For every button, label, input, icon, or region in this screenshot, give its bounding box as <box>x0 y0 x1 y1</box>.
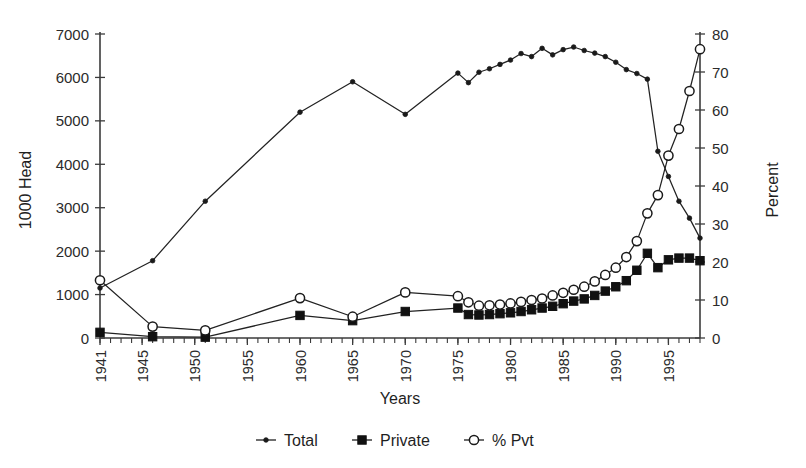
y-axis-right-title: Percent <box>764 162 781 218</box>
data-point <box>548 291 557 300</box>
data-point <box>485 310 493 318</box>
data-point <box>506 299 515 308</box>
x-tick-label: 1955 <box>240 350 256 382</box>
data-point <box>664 151 673 160</box>
data-point <box>454 304 462 312</box>
data-point <box>403 112 408 117</box>
y-axis-title: 1000 Head <box>17 151 34 229</box>
data-point <box>527 306 535 314</box>
data-point <box>538 304 546 312</box>
data-point <box>295 294 304 303</box>
data-point <box>529 54 534 59</box>
data-point <box>496 309 504 317</box>
y-tick-label: 1000 <box>56 286 89 303</box>
y2-tick-label: 70 <box>712 64 729 81</box>
data-point <box>666 174 671 179</box>
chart-legend: TotalPrivate% Pvt <box>256 432 534 449</box>
data-point <box>550 53 555 58</box>
data-point <box>695 45 704 54</box>
data-point <box>538 294 547 303</box>
data-point <box>517 307 525 315</box>
data-point <box>601 287 609 295</box>
y-tick-label: 5000 <box>56 112 89 129</box>
y2-tick-label: 20 <box>712 254 729 271</box>
data-point <box>495 300 504 309</box>
data-point <box>95 276 104 285</box>
data-point <box>561 47 566 52</box>
data-point <box>582 48 587 53</box>
data-point <box>685 86 694 95</box>
y2-tick-label: 50 <box>712 140 729 157</box>
x-tick-label: 1970 <box>398 350 414 382</box>
data-point <box>540 46 545 51</box>
data-point <box>96 328 104 336</box>
data-point <box>643 249 651 257</box>
data-point <box>401 288 410 297</box>
y2-tick-label: 80 <box>712 26 729 43</box>
data-point <box>698 236 703 241</box>
y-tick-label: 2000 <box>56 243 89 260</box>
data-point <box>508 58 513 63</box>
data-point <box>456 71 461 76</box>
data-point <box>635 71 640 76</box>
data-point <box>622 276 630 284</box>
chart-figure: 01000200030004000500060007000 0102030405… <box>0 0 806 468</box>
data-point <box>485 301 494 310</box>
data-point <box>464 298 473 307</box>
data-point <box>654 263 662 271</box>
data-point <box>685 254 693 262</box>
data-point <box>559 288 568 297</box>
y-tick-label: 0 <box>81 330 89 347</box>
data-point <box>148 332 156 340</box>
data-point <box>527 295 536 304</box>
data-point <box>516 297 525 306</box>
y-tick-label: 4000 <box>56 156 89 173</box>
y2-tick-label: 30 <box>712 216 729 233</box>
data-point <box>696 256 704 264</box>
data-point <box>677 199 682 204</box>
data-point <box>148 322 157 331</box>
data-point <box>591 291 599 299</box>
data-point <box>475 311 483 319</box>
data-point <box>611 263 620 272</box>
data-point <box>645 77 650 82</box>
data-point <box>477 70 482 75</box>
data-point <box>675 254 683 262</box>
y-tick-label: 6000 <box>56 69 89 86</box>
data-point <box>569 285 578 294</box>
data-point <box>548 302 556 310</box>
y-tick-label: 3000 <box>56 199 89 216</box>
x-tick-label: 1990 <box>608 350 624 382</box>
data-point <box>656 149 661 154</box>
y2-tick-label: 60 <box>712 102 729 119</box>
data-point <box>622 252 631 261</box>
data-point <box>674 124 683 133</box>
data-point <box>453 292 462 301</box>
data-point <box>580 295 588 303</box>
data-point <box>296 311 304 319</box>
y-tick-label: 7000 <box>56 26 89 43</box>
data-point <box>601 270 610 279</box>
data-point <box>559 299 567 307</box>
data-point <box>487 66 492 71</box>
data-point <box>613 60 618 65</box>
data-point <box>498 62 503 67</box>
data-point <box>687 216 692 221</box>
data-point <box>569 297 577 305</box>
x-tick-label: 1985 <box>556 350 572 382</box>
data-point <box>643 209 652 218</box>
data-point <box>401 307 409 315</box>
data-point <box>150 258 155 263</box>
x-tick-label: 1980 <box>503 350 519 382</box>
data-point <box>664 256 672 264</box>
x-tick-label: 1995 <box>661 350 677 382</box>
data-point <box>298 110 303 115</box>
y2-tick-label: 10 <box>712 292 729 309</box>
data-point <box>632 237 641 246</box>
legend-marker-icon <box>469 435 478 444</box>
x-tick-label: 1960 <box>293 350 309 382</box>
data-point <box>612 283 620 291</box>
data-point <box>466 80 471 85</box>
data-point <box>571 45 576 50</box>
legend-label: % Pvt <box>492 432 534 449</box>
